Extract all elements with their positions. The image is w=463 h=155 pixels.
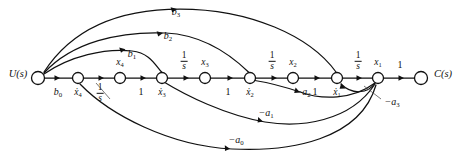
arrowhead-xd2-to-x2 bbox=[272, 75, 278, 80]
edge-a2-x1-to-xd2 bbox=[252, 80, 375, 97]
arrowhead-xd3-to-x3 bbox=[184, 75, 190, 80]
node-u[interactable] bbox=[32, 72, 45, 85]
arrowhead-x1-to-c bbox=[399, 75, 405, 80]
arrowhead-x4-to-xd3 bbox=[141, 75, 147, 80]
arrowhead-b3 bbox=[171, 7, 177, 12]
node-c[interactable] bbox=[415, 72, 428, 85]
node-xd3[interactable] bbox=[157, 73, 168, 84]
arrowhead-x2-to-xd1 bbox=[315, 75, 321, 80]
node-xd2[interactable] bbox=[245, 73, 256, 84]
signal-flow-graph-canvas bbox=[0, 0, 463, 155]
arrowhead-u-to-xd4 bbox=[55, 75, 61, 80]
forward-edge-group bbox=[45, 75, 415, 80]
node-x2[interactable] bbox=[288, 73, 299, 84]
arrowhead-a2 bbox=[294, 87, 300, 93]
node-x1[interactable] bbox=[373, 73, 384, 84]
arrowhead-xd4-to-x4 bbox=[99, 75, 105, 80]
node-x3[interactable] bbox=[200, 73, 211, 84]
arrowhead-b2 bbox=[157, 31, 163, 36]
leader-line-xd4-gain bbox=[96, 83, 110, 99]
signal-flow-graph-figure: U(s) C(s) ẋ4 ẋ3 ẋ2 ẋ1 x4 x3 x2 x1 b0… bbox=[0, 0, 463, 155]
node-x4[interactable] bbox=[115, 73, 126, 84]
arrowhead-a0 bbox=[225, 145, 230, 151]
edge-b1-u-to-xd3 bbox=[44, 50, 162, 74]
node-xd4[interactable] bbox=[73, 73, 84, 84]
arrowhead-xd1-to-x1 bbox=[357, 75, 363, 80]
feedforward-edge-group bbox=[44, 7, 336, 74]
arrowhead-x3-to-xd2 bbox=[228, 75, 234, 80]
edge-b3-u-to-xd1 bbox=[44, 9, 336, 72]
node-xd1[interactable] bbox=[332, 73, 343, 84]
feedback-edge-group bbox=[80, 80, 376, 151]
